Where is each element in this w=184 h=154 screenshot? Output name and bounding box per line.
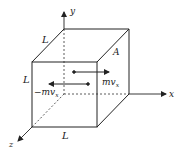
z-axis-label: z — [8, 140, 14, 149]
cube-diagram: y x z L L L A mvx −mvx — [0, 0, 184, 154]
edge-label-top: L — [41, 34, 49, 45]
axes — [18, 12, 166, 141]
positive-momentum-label: mvx — [102, 77, 120, 88]
edge-label-left: L — [22, 74, 30, 85]
z-axis-arrow — [18, 127, 32, 141]
momentum-arrows — [49, 71, 109, 86]
face-label-a: A — [112, 47, 120, 57]
y-axis-label: y — [69, 6, 76, 16]
x-axis-label: x — [169, 89, 174, 99]
molecule-dot-2 — [87, 83, 90, 86]
edge-label-bottom: L — [61, 130, 69, 141]
z-axis-hidden — [32, 94, 64, 127]
molecule-dot-1 — [73, 71, 76, 74]
negative-momentum-label: −mvx — [34, 87, 59, 98]
